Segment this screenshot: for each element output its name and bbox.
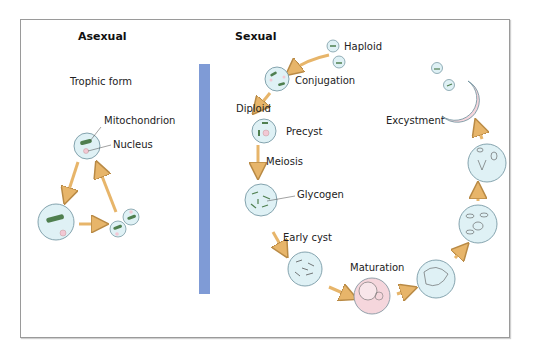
precyst-label: Precyst — [286, 126, 323, 137]
early-cyst-label: Early cyst — [283, 232, 332, 243]
precyst-cell — [252, 119, 276, 143]
glycogen-cell — [245, 184, 295, 216]
trophic-cell — [74, 127, 111, 159]
arrow-dividing-to-trophic — [98, 166, 116, 212]
meiosis-label: Meiosis — [266, 156, 303, 167]
conjugation-label: Conjugation — [295, 75, 355, 86]
dividing-cells — [110, 209, 139, 237]
arrow-haploid-to-conjugation — [290, 55, 329, 72]
excysted-cells — [432, 63, 455, 91]
haploid-cells — [327, 40, 345, 68]
haploid-label: Haploid — [344, 41, 382, 52]
conjugation-cell — [265, 67, 289, 91]
maturation-label: Maturation — [350, 262, 404, 273]
maturation-cyst — [354, 278, 390, 314]
arrow-maturation-to-cyst-1 — [397, 289, 412, 294]
trophic-form-label: Trophic form — [69, 76, 132, 87]
early-cyst — [288, 252, 322, 286]
arrow-trophic-to-large — [66, 162, 78, 199]
nucleus-label: Nucleus — [113, 139, 153, 150]
life-cycle-diagram: Asexual Sexual Trophic form Mitochondrio… — [0, 0, 543, 352]
excystment-label: Excystment — [386, 115, 445, 126]
large-trophic-cell — [38, 204, 74, 240]
arrow-cyst-3-to-excystment — [477, 124, 482, 139]
sexual-header: Sexual — [235, 30, 277, 43]
cyst-stage-3 — [468, 144, 506, 182]
glycogen-label: Glycogen — [297, 189, 344, 200]
arrow-cyst-1-to-cyst-2 — [455, 247, 465, 258]
cyst-stage-1 — [417, 260, 455, 298]
cyst-stage-2 — [459, 205, 497, 243]
arrow-early-cyst-to-maturation — [329, 287, 352, 297]
asexual-header: Asexual — [78, 30, 127, 43]
asexual-arrows — [66, 162, 116, 224]
diploid-label: Diploid — [236, 103, 271, 114]
mitochondrion-label: Mitochondrion — [104, 115, 175, 126]
